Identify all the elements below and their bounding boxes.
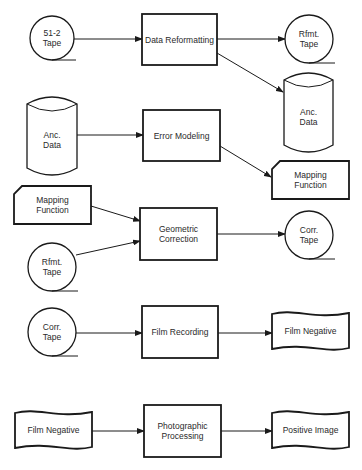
flowchart-canvas: 51-2TapeData ReformattingRfmt.TapeAnc.Da… [0,0,362,470]
node-rfmt-tape-out: Rfmt.Tape [285,15,335,63]
node-label-line: Rfmt. [42,257,62,267]
node-positive-image: Positive Image [272,411,349,448]
node-mapping-function-in: MappingFunction [14,186,91,224]
node-label-line: Film Recording [151,327,208,337]
node-label-line: Data [43,140,61,150]
node-label-line: Corr. [43,322,61,332]
node-corr-tape-in: Corr.Tape [28,308,78,356]
node-tape512: 51-2Tape [30,16,76,60]
node-label-line: Correction [159,234,198,244]
node-mapping-function-out: MappingFunction [272,161,349,199]
arrow-mapping-function-in-to-geometric-correction [91,206,140,221]
node-label-line: 51-2 [43,28,60,38]
node-error-modeling: Error Modeling [143,110,220,161]
node-label-line: Tape [300,235,319,245]
node-corr-tape-out: Corr.Tape [285,211,335,259]
node-label-line: Anc. [43,130,60,140]
nodes-layer: 51-2TapeData ReformattingRfmt.TapeAnc.Da… [14,14,349,457]
node-anc-data-in: Anc.Data [27,97,77,175]
node-label-line: Data [300,117,318,127]
node-label-line: Geometric [159,224,199,234]
node-label-line: Corr. [300,225,318,235]
arrow-error-modeling-to-mapping-function-out [220,146,271,177]
node-label-line: Tape [43,332,62,342]
node-label-line: Positive Image [283,425,339,435]
node-label-line: Mapping [294,170,327,180]
node-anc-data-out: Anc.Data [284,73,333,152]
arrow-rfmt-tape-in-to-geometric-correction [76,241,140,255]
node-label-line: Rfmt. [299,29,319,39]
node-rfmt-tape-in: Rfmt.Tape [28,243,78,291]
node-data-reformatting: Data Reformatting [142,14,217,65]
node-label-line: Data Reformatting [145,35,214,45]
node-label-line: Film Negative [28,425,80,435]
node-label-line: Tape [43,267,62,277]
node-photographic-processing: PhotographicProcessing [144,405,221,457]
node-label-line: Function [36,205,69,215]
arrow-data-reformatting-to-anc-data-out [217,53,283,92]
node-label-line: Processing [161,431,203,441]
node-label-line: Anc. [300,107,317,117]
node-film-negative-out: Film Negative [272,312,349,349]
node-label-line: Film Negative [285,326,337,336]
node-label-line: Error Modeling [154,131,210,141]
node-film-negative-in: Film Negative [15,411,92,448]
node-label-line: Tape [43,38,62,48]
node-film-recording: Film Recording [142,306,218,358]
node-label-line: Mapping [36,195,69,205]
node-label-line: Tape [300,39,319,49]
data-processing-flowchart: 51-2TapeData ReformattingRfmt.TapeAnc.Da… [0,0,362,470]
node-label-line: Function [294,180,327,190]
node-label-line: Photographic [157,421,208,431]
node-geometric-correction: GeometricCorrection [140,208,217,260]
